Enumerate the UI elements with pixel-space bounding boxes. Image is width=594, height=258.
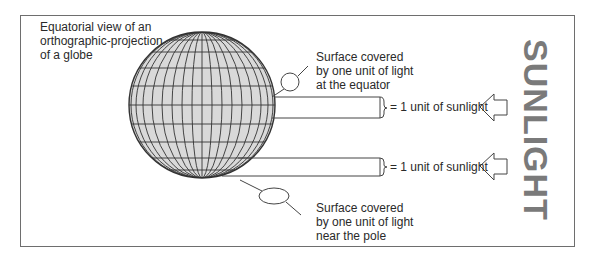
equator-label: Surface covered by one unit of light at …: [316, 50, 413, 92]
pole-surface-ellipse: [259, 188, 289, 204]
sunlight-title: SUNLIGHT: [520, 30, 550, 230]
pole-label: Surface covered by one unit of light nea…: [316, 201, 413, 243]
pole-beam-label: = 1 unit of sunlight: [390, 160, 488, 174]
globe-title-label: Equatorial view of an orthographic-proje…: [40, 20, 163, 62]
equator-surface-circle: [281, 73, 299, 91]
equator-beam-label: = 1 unit of sunlight: [390, 100, 488, 114]
sunlight-text: SUNLIGHT: [516, 39, 555, 221]
